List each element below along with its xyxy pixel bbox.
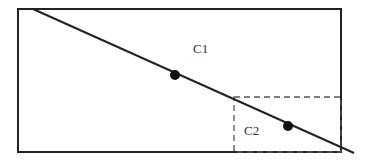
data-point — [283, 121, 293, 131]
label-c2: C2 — [244, 123, 259, 138]
diagram-canvas: C1 C2 — [0, 0, 370, 161]
data-point — [170, 70, 180, 80]
label-c1: C1 — [193, 41, 208, 56]
outer-rectangle — [18, 9, 341, 152]
diagonal-line — [33, 9, 354, 153]
